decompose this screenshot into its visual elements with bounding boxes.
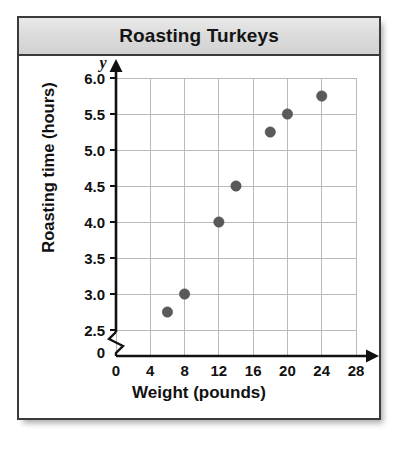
gridlines [116,78,356,356]
data-point [231,181,241,191]
x-tick-labels: 0481216202428 [112,362,365,379]
x-tick-label: 0 [112,362,120,379]
y-axis-arrow [110,59,123,72]
data-point [265,127,275,137]
y-tick-label: 4.0 [84,214,105,231]
x-tick-label: 20 [279,362,296,379]
y-tick-labels: 2.53.03.54.04.55.05.56.0 [84,70,105,339]
plot-container: Roasting time (hours) Weight (pounds) 2.… [19,56,379,418]
x-tick-label: 4 [146,362,155,379]
data-point [214,217,224,227]
y-tick-label: 3.5 [84,250,105,267]
chart-title: Roasting Turkeys [119,25,279,47]
chart-figure: Roasting Turkeys Roasting time (hours) W… [17,16,381,420]
data-point [282,109,292,119]
y-tick-label: 3.0 [84,286,105,303]
x-axis-arrow [366,350,379,363]
axis-letters: xy [97,56,379,380]
x-axis-title: Weight (pounds) [19,383,379,403]
y-axis-letter: y [97,56,107,72]
data-point [317,91,327,101]
y-tick-label: 5.0 [84,142,105,159]
y-tick-label: 6.0 [84,70,105,87]
y-tick-label: 5.5 [84,106,105,123]
scatter-plot-svg: 2.53.03.54.04.55.05.56.0 0481216202428 0… [19,56,379,386]
x-tick-label: 28 [348,362,365,379]
chart-title-banner: Roasting Turkeys [19,18,379,56]
x-tick-label: 16 [245,362,262,379]
plot-border [116,78,356,356]
y-origin-label: 0 [97,344,105,361]
data-point [162,307,172,317]
x-tick-label: 12 [211,362,228,379]
grid-outer-border [116,78,356,356]
x-tick-label: 8 [180,362,188,379]
y-tick-label: 4.5 [84,178,105,195]
x-tick-label: 24 [313,362,330,379]
y-tick-label: 2.5 [84,322,105,339]
origin-labels: 0 [97,344,105,361]
data-point [179,289,189,299]
data-points [162,91,327,317]
